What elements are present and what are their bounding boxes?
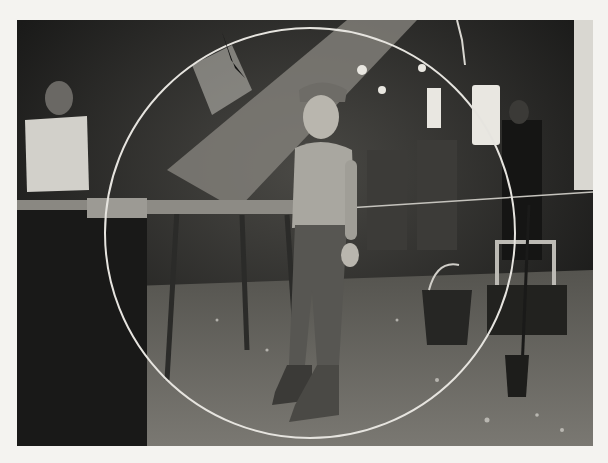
photo-scene [17,20,593,446]
boy-hand [341,243,359,267]
boy-arm [345,160,357,240]
bench-items [87,198,147,218]
boy-trousers [289,225,347,365]
photograph [17,20,593,446]
boy-face [303,95,339,139]
table-top [147,200,297,214]
